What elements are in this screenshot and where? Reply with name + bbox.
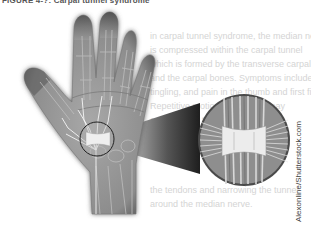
carpal-tunnel-highlight xyxy=(80,122,114,156)
carpal-tunnel-illustration xyxy=(0,0,311,236)
image-credit: Alexonline/Shutterstock.com xyxy=(294,121,303,222)
magnified-view xyxy=(198,94,290,186)
